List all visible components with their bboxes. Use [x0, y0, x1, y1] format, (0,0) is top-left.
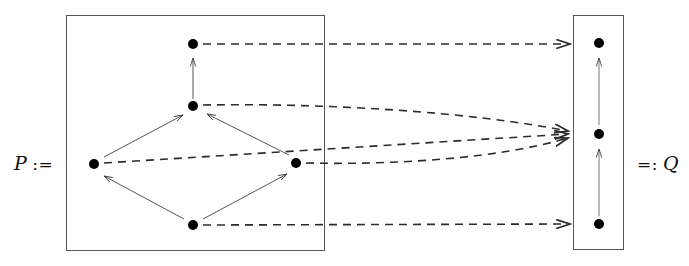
node-p-left — [89, 159, 99, 169]
source-nodes — [89, 39, 301, 230]
source-label-symbol: P — [14, 152, 27, 174]
source-label: P:= — [14, 152, 53, 174]
map-edge-p-right-to-q-mid — [306, 138, 568, 163]
source-label-operator: := — [32, 154, 53, 174]
map-edges — [104, 44, 570, 225]
target-label-operator: =: — [637, 154, 658, 174]
node-p-upper — [188, 101, 198, 111]
map-edge-p-upper-to-q-mid — [203, 105, 568, 131]
node-q-mid — [594, 129, 604, 139]
source-edges — [104, 58, 289, 219]
map-edge-p-left-to-q-mid — [104, 134, 568, 163]
node-p-right — [291, 158, 301, 168]
source-box — [67, 16, 325, 251]
node-p-top — [188, 39, 198, 49]
edge-p-left-to-p-upper — [104, 115, 183, 157]
node-p-bottom — [188, 220, 198, 230]
node-q-top — [594, 38, 604, 48]
diagram-svg — [0, 0, 689, 266]
target-label-symbol: Q — [663, 152, 679, 174]
diagram-canvas: P:= =:Q — [0, 0, 689, 266]
map-edge-p-bottom-to-q-bottom — [203, 224, 570, 225]
edge-p-right-to-p-upper — [207, 114, 289, 155]
node-q-bottom — [594, 219, 604, 229]
edge-p-bottom-to-p-left — [104, 176, 184, 219]
edge-p-bottom-to-p-right — [203, 174, 287, 219]
target-label: =:Q — [637, 152, 679, 174]
